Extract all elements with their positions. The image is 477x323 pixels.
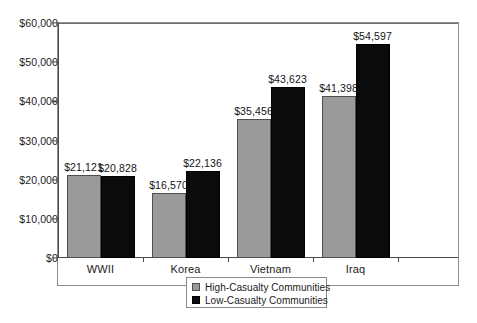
bar-wwii-low-casualty [101, 176, 135, 258]
bar-vietnam-high-casualty [237, 119, 271, 258]
chart-legend: High-Casualty Communities Low-Casualty C… [186, 277, 327, 308]
bars-layer [58, 0, 398, 258]
x-axis-label-iraq: Iraq [311, 263, 401, 275]
legend-label-low-casualty: Low-Casualty Communities [205, 295, 328, 306]
legend-item-high-casualty: High-Casualty Communities [192, 281, 321, 293]
bar-iraq-low-casualty [356, 44, 390, 258]
bar-vietnam-low-casualty [271, 87, 305, 258]
legend-swatch-low-casualty-icon [192, 296, 200, 304]
x-axis-label-vietnam: Vietnam [226, 263, 316, 275]
legend-item-low-casualty: Low-Casualty Communities [192, 294, 321, 306]
bar-korea-low-casualty [186, 171, 220, 258]
legend-swatch-high-casualty-icon [192, 283, 200, 291]
x-axis-tick-mark [398, 257, 399, 262]
bar-iraq-high-casualty [322, 96, 356, 258]
x-axis-label-korea: Korea [141, 263, 231, 275]
x-axis-label-wwii: WWII [56, 263, 146, 275]
bar-wwii-high-casualty [67, 175, 101, 258]
bar-korea-high-casualty [152, 193, 186, 258]
legend-label-high-casualty: High-Casualty Communities [205, 282, 330, 293]
bar-chart: $0$10,000$20,000$30,000$40,000$50,000$60… [0, 0, 477, 323]
